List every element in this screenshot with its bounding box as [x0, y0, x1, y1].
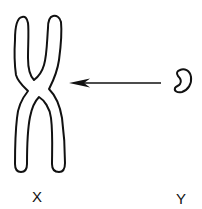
chromosome-diagram [0, 0, 202, 209]
x-chromosome [15, 16, 65, 172]
y-chromosome [175, 69, 191, 92]
arrow-icon [69, 79, 161, 88]
label-x: X [32, 189, 42, 204]
label-y: Y [176, 191, 186, 206]
